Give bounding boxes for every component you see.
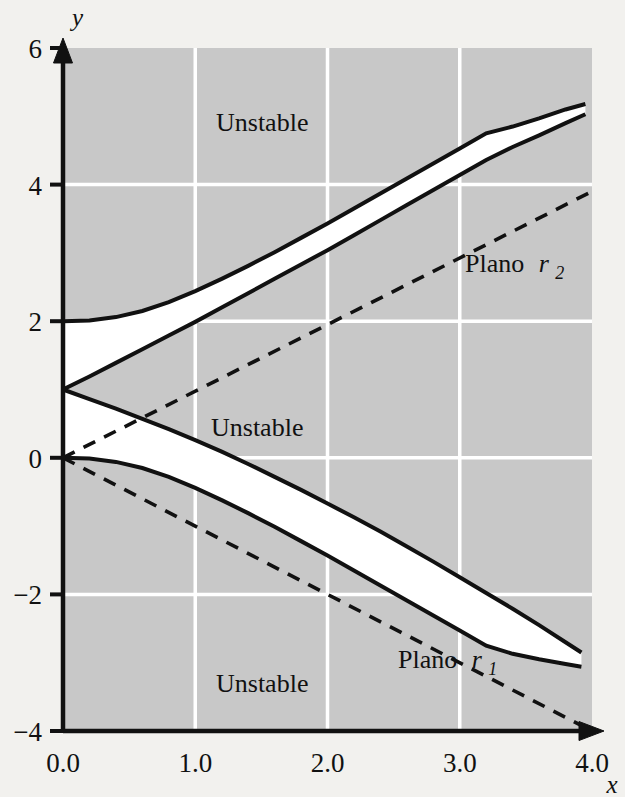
x-tick-label-0: 0.0	[46, 748, 80, 778]
label-unstable-middle: Unstable	[211, 413, 303, 442]
y-axis-label: y	[69, 4, 84, 31]
plano-r2-variable: r	[539, 249, 550, 278]
y-tick-label-neg4: −4	[13, 717, 42, 747]
plano-r2-subscript: 2	[555, 263, 564, 283]
plano-r1-variable: r	[472, 645, 483, 674]
x-tick-label-1: 1.0	[178, 748, 212, 778]
label-plano-r1: Plano r 1	[398, 645, 497, 679]
y-tick-label-2: 2	[29, 307, 43, 337]
y-tick-label-neg2: −2	[13, 580, 42, 610]
stability-diagram-figure: 6 4 2 0 −2 −4 0.0 1.0 2.0 3.0 4.0 y x Un…	[0, 0, 625, 797]
label-unstable-top: Unstable	[216, 108, 308, 137]
y-tick-label-0: 0	[29, 444, 43, 474]
y-tick-label-4: 4	[29, 171, 43, 201]
x-tick-label-3: 3.0	[443, 748, 477, 778]
label-plano-r2: Plano r 2	[465, 249, 564, 283]
plot-svg: 6 4 2 0 −2 −4 0.0 1.0 2.0 3.0 4.0 y x Un…	[0, 0, 625, 797]
plano-r1-subscript: 1	[488, 659, 497, 679]
x-tick-label-4: 4.0	[575, 748, 609, 778]
x-tick-label-2: 2.0	[311, 748, 345, 778]
label-unstable-bottom: Unstable	[216, 669, 308, 698]
plano-r1-word: Plano	[398, 645, 457, 674]
plano-r2-word: Plano	[465, 249, 524, 278]
x-axis-label: x	[605, 771, 617, 797]
y-tick-label-6: 6	[29, 34, 43, 64]
